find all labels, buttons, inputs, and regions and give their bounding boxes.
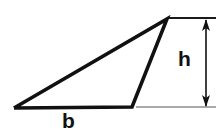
base-label: b [62,110,75,131]
triangle-diagram: h b [0,0,223,132]
height-label: h [178,48,191,69]
